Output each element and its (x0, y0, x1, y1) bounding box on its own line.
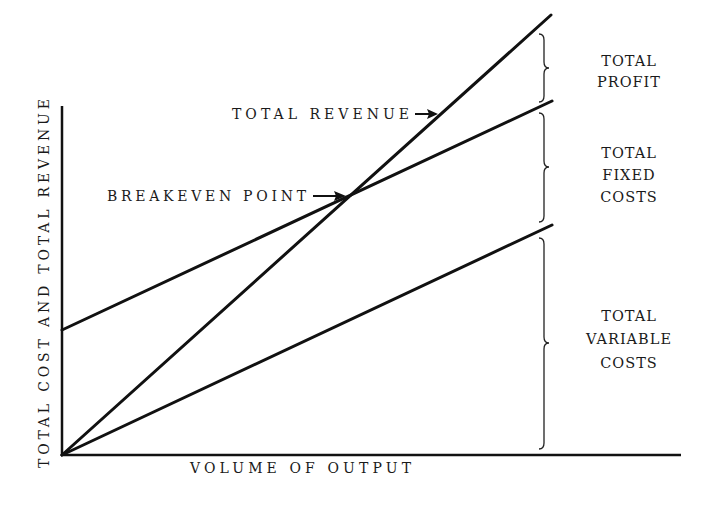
variable-costs-brace-icon (539, 238, 549, 449)
svg-text:TOTAL: TOTAL (601, 145, 657, 161)
total-revenue-arrow-icon (415, 109, 438, 119)
svg-text:TOTAL: TOTAL (601, 53, 657, 69)
svg-text:VARIABLE: VARIABLE (585, 331, 672, 347)
total-revenue-label: TOTAL REVENUE (232, 106, 410, 122)
svg-text:FIXED: FIXED (602, 167, 655, 183)
variable-cost-line (62, 225, 552, 455)
y-axis-label: TOTAL COST AND TOTAL REVENUE (36, 98, 52, 468)
total-fixed-costs-label: TOTAL FIXED COSTS (600, 145, 658, 205)
total-profit-label: TOTAL PROFIT (597, 53, 661, 90)
breakeven-chart: TOTAL COST AND TOTAL REVENUE VOLUME OF O… (0, 0, 707, 506)
svg-text:COSTS: COSTS (600, 355, 658, 371)
x-axis-label: VOLUME OF OUTPUT (189, 460, 412, 476)
svg-text:COSTS: COSTS (600, 189, 658, 205)
profit-brace-icon (539, 34, 549, 102)
breakeven-point-label: BREAKEVEN POINT (107, 188, 307, 204)
fixed-costs-brace-icon (539, 113, 549, 222)
svg-text:TOTAL: TOTAL (601, 308, 657, 324)
total-revenue-line (62, 15, 551, 455)
total-cost-line (62, 101, 552, 330)
svg-text:PROFIT: PROFIT (597, 74, 661, 90)
total-variable-costs-label: TOTAL VARIABLE COSTS (585, 308, 672, 371)
